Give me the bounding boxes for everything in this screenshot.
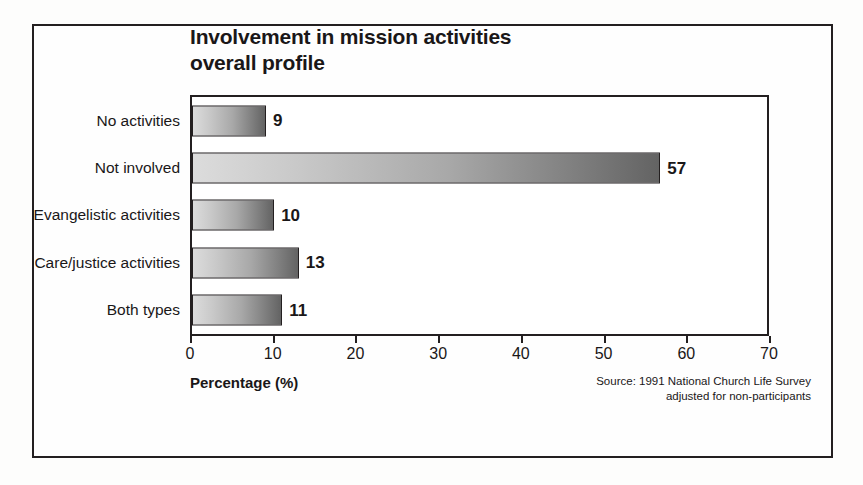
bar-row: No activities 9 bbox=[192, 97, 767, 144]
bar-value-evangelistic-activities: 10 bbox=[281, 205, 300, 225]
bar-both-types bbox=[192, 295, 282, 326]
x-tick-label: 40 bbox=[512, 345, 530, 363]
x-tick-label: 30 bbox=[429, 345, 447, 363]
x-tick-label: 60 bbox=[677, 345, 695, 363]
x-tick-mark bbox=[604, 336, 606, 343]
x-tick-mark bbox=[190, 336, 192, 343]
bar-wrapper-no-activities: 9 bbox=[192, 105, 266, 136]
bar-value-not-involved: 57 bbox=[667, 158, 686, 178]
x-tick-mark bbox=[438, 336, 440, 343]
category-label-not-involved: Not involved bbox=[95, 159, 180, 177]
bar-value-both-types: 11 bbox=[289, 300, 307, 320]
category-label-care-justice-activities: Care/justice activities bbox=[34, 254, 180, 272]
bar-wrapper-both-types: 11 bbox=[192, 295, 282, 326]
bar-wrapper-evangelistic-activities: 10 bbox=[192, 200, 274, 231]
x-tick-label: 50 bbox=[595, 345, 613, 363]
chart-title: Involvement in mission activities overal… bbox=[190, 24, 710, 75]
x-tick-label: 20 bbox=[347, 345, 365, 363]
bar-evangelistic-activities bbox=[192, 200, 274, 231]
bar-value-care-justice-activities: 13 bbox=[306, 253, 325, 273]
bar-not-involved bbox=[192, 153, 660, 184]
category-label-no-activities: No activities bbox=[96, 112, 180, 130]
x-tick-mark bbox=[273, 336, 275, 343]
x-tick-label: 0 bbox=[186, 345, 195, 363]
bar-rows: No activities 9 Not involved 57 Evangeli… bbox=[192, 97, 767, 334]
x-axis: 0 10 20 30 40 50 60 70 bbox=[190, 336, 769, 370]
x-tick-mark bbox=[355, 336, 357, 343]
bar-row: Care/justice activities 13 bbox=[192, 239, 767, 286]
source-note: Source: 1991 National Church Life Survey… bbox=[596, 374, 811, 404]
x-tick-mark bbox=[769, 336, 771, 343]
source-note-line-1: Source: 1991 National Church Life Survey bbox=[596, 374, 811, 389]
bar-row: Not involved 57 bbox=[192, 144, 767, 191]
x-tick-label: 10 bbox=[264, 345, 282, 363]
bar-wrapper-care-justice-activities: 13 bbox=[192, 247, 299, 278]
category-label-both-types: Both types bbox=[107, 301, 180, 319]
x-axis-title: Percentage (%) bbox=[190, 374, 298, 391]
chart-title-line-2: overall profile bbox=[190, 50, 710, 76]
bar-row: Evangelistic activities 10 bbox=[192, 192, 767, 239]
bar-wrapper-not-involved: 57 bbox=[192, 153, 660, 184]
bar-no-activities bbox=[192, 105, 266, 136]
category-label-evangelistic-activities: Evangelistic activities bbox=[34, 206, 180, 224]
chart-title-line-1: Involvement in mission activities bbox=[190, 24, 710, 50]
source-note-line-2: adjusted for non-participants bbox=[596, 389, 811, 404]
x-tick-mark bbox=[686, 336, 688, 343]
x-tick-label: 70 bbox=[760, 345, 778, 363]
plot-area: No activities 9 Not involved 57 Evangeli… bbox=[190, 95, 769, 336]
bar-value-no-activities: 9 bbox=[273, 111, 282, 131]
bar-care-justice-activities bbox=[192, 247, 299, 278]
x-tick-mark bbox=[521, 336, 523, 343]
bar-row: Both types 11 bbox=[192, 287, 767, 334]
figure-page: Involvement in mission activities overal… bbox=[0, 0, 863, 485]
